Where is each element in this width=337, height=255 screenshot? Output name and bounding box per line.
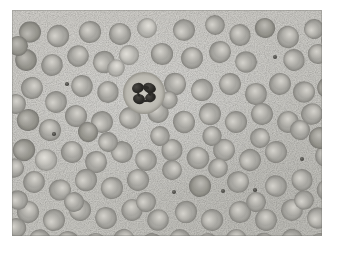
platelet <box>52 132 55 135</box>
platelet <box>65 82 69 86</box>
platelet <box>253 188 257 192</box>
photomicrograph-figure: Peripheral blood smear Romanowsky-type s… <box>0 0 337 255</box>
neutrophil-cell <box>123 72 165 114</box>
micrograph-field <box>12 10 322 236</box>
platelet <box>221 189 225 193</box>
